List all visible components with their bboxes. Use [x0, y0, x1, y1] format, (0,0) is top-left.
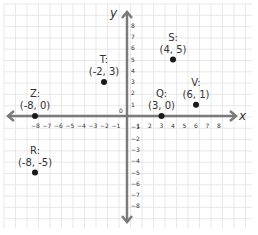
point-coord: (4, 5)	[160, 44, 187, 55]
x-tick-label: −3	[89, 122, 98, 129]
x-tick-label: −4	[77, 122, 86, 129]
y-tick-label: 4	[131, 67, 135, 74]
point-marker	[32, 113, 38, 119]
point-marker	[101, 79, 107, 85]
y-tick-label: −5	[131, 169, 140, 176]
y-tick-label: −8	[131, 202, 140, 209]
point-name: S:	[168, 32, 178, 43]
points: Z:(-8, 0)T:(-2, 3)S:(4, 5)Q:(3, 0)V:(6, …	[18, 32, 210, 176]
point-coord: (-2, 3)	[89, 66, 120, 77]
x-tick-label: −6	[54, 122, 63, 129]
x-tick-label: −5	[66, 122, 75, 129]
point-q: Q:(3, 0)	[148, 88, 175, 119]
x-tick-label: −1	[112, 122, 121, 129]
point-s: S:(4, 5)	[160, 32, 187, 63]
origin-label: 0	[119, 107, 123, 114]
point-name: R:	[30, 145, 40, 156]
point-marker	[159, 113, 165, 119]
point-coord: (-8, -5)	[18, 157, 52, 168]
y-tick-label: 3	[131, 78, 135, 85]
y-tick-label: −3	[131, 146, 140, 153]
x-tick-label: −7	[43, 122, 52, 129]
x-tick-label: −2	[100, 122, 109, 129]
y-tick-label: 6	[131, 44, 135, 51]
y-tick-label: −6	[131, 180, 140, 187]
x-tick-label: 4	[171, 122, 175, 129]
x-tick-label: 7	[206, 122, 210, 129]
x-tick-label: 6	[194, 122, 198, 129]
point-z: Z:(-8, 0)	[20, 88, 51, 119]
point-coord: (6, 1)	[183, 89, 210, 100]
y-tick-label: −4	[131, 157, 140, 164]
point-r: R:(-8, -5)	[18, 145, 52, 176]
coordinate-plane: x y 0 −8−7−6−5−4−3−2−11234567887654321−1…	[0, 0, 258, 235]
point-coord: (-8, 0)	[20, 100, 51, 111]
point-name: Q:	[156, 88, 167, 99]
point-name: V:	[191, 77, 200, 88]
point-v: V:(6, 1)	[183, 77, 210, 108]
x-tick-label: 2	[148, 122, 152, 129]
y-tick-label: 5	[131, 56, 135, 63]
y-tick-label: −7	[131, 191, 140, 198]
point-coord: (3, 0)	[148, 100, 175, 111]
x-tick-label: 8	[217, 122, 221, 129]
point-marker	[170, 57, 176, 63]
point-name: Z:	[30, 88, 40, 99]
point-name: T:	[99, 54, 108, 65]
y-tick-label: 2	[131, 89, 135, 96]
y-tick-label: −2	[131, 135, 140, 142]
y-tick-label: 1	[131, 101, 135, 108]
point-marker	[32, 170, 38, 176]
x-tick-label: 3	[160, 122, 164, 129]
y-tick-label: 7	[131, 33, 135, 40]
y-tick-label: 8	[131, 22, 135, 29]
point-t: T:(-2, 3)	[89, 54, 120, 85]
y-tick-label: −1	[131, 123, 140, 130]
x-tick-label: 5	[183, 122, 187, 129]
x-axis-label: x	[238, 109, 247, 123]
x-tick-label: −8	[31, 122, 40, 129]
y-axis-label: y	[109, 6, 118, 20]
point-marker	[193, 102, 199, 108]
